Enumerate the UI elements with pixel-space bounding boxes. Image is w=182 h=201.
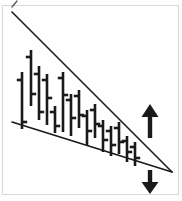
corner-tick-mark xyxy=(12,1,17,7)
breakout-up-arrow xyxy=(142,104,159,138)
ohlc-bar xyxy=(98,120,108,152)
ohlc-bar xyxy=(42,74,52,125)
ohlc-bar xyxy=(82,110,92,145)
ohlc-bar xyxy=(114,122,124,154)
ohlc-bar xyxy=(58,72,68,132)
ohlc-bar xyxy=(17,72,27,129)
trendlines-group xyxy=(12,12,172,172)
ohlc-bar xyxy=(90,104,100,138)
breakout-down-arrow xyxy=(142,170,159,194)
chart-pattern-figure xyxy=(0,0,182,201)
upper-resistance-line xyxy=(12,12,172,172)
ohlc-bar xyxy=(66,94,76,136)
ohlc-bar xyxy=(26,50,36,106)
arrow-head-up xyxy=(142,104,159,117)
descending-wedge-chart xyxy=(0,0,182,201)
ohlc-bars-group xyxy=(17,50,140,166)
breakout-annotations-group xyxy=(12,1,159,194)
ohlc-bar xyxy=(122,136,132,162)
arrow-head-down xyxy=(142,182,159,194)
ohlc-bar xyxy=(50,106,60,133)
ohlc-bar xyxy=(74,90,84,128)
